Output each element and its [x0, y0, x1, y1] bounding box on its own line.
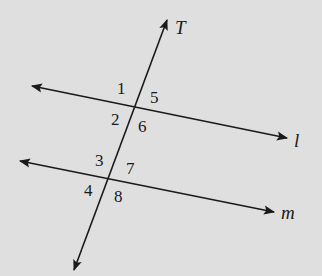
transversal-t [74, 20, 167, 270]
diagram-canvas: T l m 1 5 2 6 3 7 4 8 [0, 0, 322, 276]
angle-5: 5 [150, 88, 159, 107]
label-m: m [281, 202, 295, 223]
line-l [32, 86, 287, 138]
angle-1: 1 [117, 79, 126, 98]
line-m [20, 161, 274, 212]
label-t: T [175, 17, 187, 38]
angle-6: 6 [138, 117, 147, 136]
angle-3: 3 [95, 151, 104, 170]
label-l: l [294, 130, 299, 151]
angle-2: 2 [111, 110, 120, 129]
angle-7: 7 [126, 159, 135, 178]
angle-4: 4 [84, 181, 93, 200]
angle-8: 8 [114, 187, 123, 206]
